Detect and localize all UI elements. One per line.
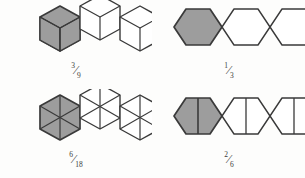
hexagon-2-triangles [80,89,120,129]
hexagon-1-shaded-halves [174,98,222,134]
fraction-denominator: 9 [77,71,81,80]
hexagon-halves-diagram [153,89,305,155]
hexagon-2 [222,9,270,45]
hexagon-3 [270,9,305,45]
fraction-label-top-right: 1⁄3 [153,61,305,80]
hexagon-1-shaded [40,6,80,51]
hexagon-2-plain [80,0,120,40]
hexagon-3-plain [120,6,152,51]
fraction-denominator: 6 [230,160,234,169]
triangle-hexagons-svg [0,89,152,155]
fraction-label-top-left: 3⁄9 [0,61,152,80]
hexagon-triangles-diagram [0,89,152,155]
fraction-figure: 3⁄9 1⁄3 [0,0,305,178]
panel-top-left: 3⁄9 [0,0,152,89]
fraction-denominator: 18 [75,160,83,169]
fraction-label-bottom-right: 2⁄6 [153,150,305,169]
panel-bottom-left: 6⁄18 [0,89,152,178]
hexagon-1 [174,9,222,45]
fraction-label-bottom-left: 6⁄18 [0,150,152,169]
halved-hexagons-svg [153,89,305,155]
hexagon-3-triangles [120,95,152,140]
fraction-denominator: 3 [230,71,234,80]
hexagon-cube-diagram [0,0,152,66]
hexagon-1-shaded-triangles [40,95,80,140]
panel-top-right: 1⁄3 [153,0,305,89]
hexagon-2-halves [222,98,270,134]
hexagon-plain-diagram [153,0,305,66]
panel-bottom-right: 2⁄6 [153,89,305,178]
cube-hexagons-svg [0,0,152,66]
plain-hexagons-svg [153,0,305,66]
hexagon-3-halves [270,98,305,134]
